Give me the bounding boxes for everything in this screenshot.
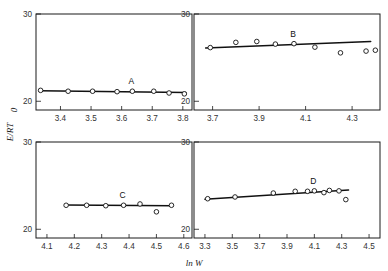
x-tick-label: 3.7 [207,114,219,123]
data-point [305,189,310,194]
x-tick-label: 4.3 [346,114,358,123]
x-tick-label: 4.5 [363,242,375,251]
data-point [151,89,156,94]
data-point [38,88,43,93]
curve-label-c: C [120,190,126,200]
data-point [66,89,71,94]
panel-frame-b [194,14,380,110]
y-tick-label: 30 [23,10,33,19]
panel-frame-c [36,142,192,238]
data-point [292,41,297,46]
curve-label-b: B [290,29,296,39]
fit-line-b [206,41,371,48]
x-tick-label: 3.7 [254,242,266,251]
y-tick-label: 20 [181,97,191,106]
x-tick-label: 3.7 [147,114,159,123]
data-point [64,203,69,208]
data-point [327,188,332,193]
data-point [182,92,187,97]
y-tick-label: 20 [23,225,33,234]
y-tick-label: 20 [181,225,191,234]
data-point [167,91,172,96]
x-tick-label: 3.5 [227,242,239,251]
panel-b: 3.73.94.14.32030B [181,10,380,123]
data-point [205,196,210,201]
x-tick-label: 4.6 [178,242,190,251]
fit-line-c [65,205,173,206]
data-point [344,197,349,202]
data-point [234,40,239,45]
x-tick-label: 4.4 [123,242,135,251]
x-tick-label: 3.3 [199,242,211,251]
panel-frame-d [194,142,380,238]
x-tick-label: 3.9 [281,242,293,251]
data-point [322,190,327,195]
x-tick-label: 4.1 [300,114,312,123]
four-panel-scatter-plot: 3.43.53.63.73.82030A3.73.94.14.32030B4.1… [0,0,388,271]
data-point [254,39,259,44]
data-point [169,203,174,208]
x-tick-label: 3.4 [55,114,67,123]
data-point [373,48,378,53]
data-point [90,89,95,94]
y-tick-label: 30 [23,138,33,147]
data-point [364,49,369,54]
x-axis-label: ln W [186,258,204,268]
x-tick-label: 4.1 [41,242,53,251]
y-axis-label: E/RT [5,122,15,142]
data-point [121,203,126,208]
panel-a: 3.43.53.63.73.82030A [23,10,192,123]
data-point [130,89,135,94]
x-tick-label: 3.9 [253,114,265,123]
fit-line-a [39,91,186,93]
data-point [154,210,159,215]
data-point [208,45,213,50]
y-tick-label: 20 [23,97,33,106]
x-tick-label: 4.3 [336,242,348,251]
x-tick-label: 3.6 [116,114,128,123]
x-tick-label: 3.8 [177,114,189,123]
panel-c: 4.14.24.34.44.54.62030C [23,138,192,251]
curve-label-d: D [310,176,316,186]
data-point [138,202,143,207]
y-axis-label-subscript: 0 [9,107,19,112]
y-tick-label: 30 [181,138,191,147]
data-point [337,189,342,194]
data-point [103,203,108,208]
figure-container: 3.43.53.63.73.82030A3.73.94.14.32030B4.1… [0,0,388,271]
data-point [313,45,318,50]
x-tick-label: 4.2 [69,242,81,251]
x-tick-label: 4.3 [96,242,108,251]
y-tick-label: 30 [181,10,191,19]
x-tick-label: 4.5 [151,242,163,251]
data-point [293,189,298,194]
panel-d: 3.33.53.73.94.14.34.52030D [181,138,380,251]
data-point [338,51,343,56]
data-point [271,191,276,196]
data-point [84,203,89,208]
data-point [273,42,278,47]
curve-label-a: A [129,76,135,86]
x-tick-label: 4.1 [309,242,321,251]
data-point [233,195,238,200]
data-point [115,89,120,94]
data-point [312,189,317,194]
x-tick-label: 3.5 [85,114,97,123]
